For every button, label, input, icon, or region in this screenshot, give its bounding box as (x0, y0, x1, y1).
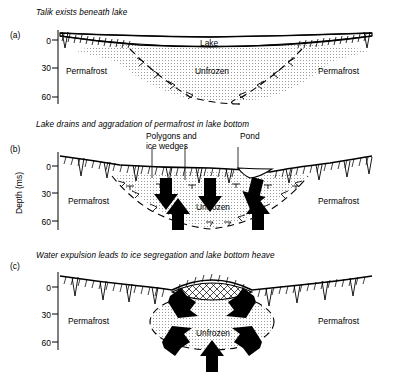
panel-c: Water expulsion leads to ice segregation… (0, 240, 419, 376)
panel-a: Talik exists beneath lake (a) 0 30 60 (0, 0, 419, 118)
annotation-line2: ice wedges (146, 141, 188, 151)
panel-a-label-permafrost-right: Permafrost (318, 66, 359, 76)
panel-c-cross-section (0, 240, 419, 376)
panel-a-label-permafrost-left: Permafrost (66, 66, 107, 76)
panel-b: Lake drains and aggradation of permafros… (0, 118, 419, 240)
annotation-pond: Pond (240, 132, 260, 142)
panel-c-label-permafrost-right: Permafrost (318, 316, 359, 326)
annotation-polygons-ice-wedges: Polygons and ice wedges (146, 132, 197, 151)
panel-a-label-unfrozen: Unfrozen (195, 66, 229, 76)
panel-b-label-permafrost-left: Permafrost (68, 196, 109, 206)
annotation-line1: Polygons and (146, 131, 197, 141)
panel-a-label-lake: Lake (200, 38, 218, 48)
figure-root: Talik exists beneath lake (a) 0 30 60 (0, 0, 419, 376)
panel-b-label-unfrozen: Unfrozen (196, 202, 230, 212)
panel-a-cross-section (0, 0, 419, 118)
panel-b-cross-section (0, 118, 419, 240)
panel-c-label-permafrost-left: Permafrost (68, 316, 109, 326)
panel-c-label-unfrozen: Unfrozen (196, 328, 230, 338)
panel-b-label-permafrost-right: Permafrost (318, 196, 359, 206)
